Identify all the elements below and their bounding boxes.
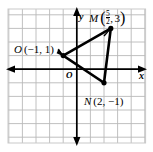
coordinate-plane-figure: O(−1, 1) M ( 5 2 , 3 ) N(2, −1) O x y [0,0,153,152]
point-label-o: O(−1, 1) [14,44,54,55]
y-axis-down-arrow [73,137,80,146]
origin-label: O [66,71,73,80]
coordinate-plane-svg [0,0,153,152]
point-label-m-comma: , [110,13,113,24]
point-label-m: M ( 5 2 , 3 ) [89,10,125,27]
x-axis-left-arrow [6,66,15,73]
point-label-n-name: N [84,95,91,107]
axes [11,12,142,141]
point-label-o-name: O [14,43,22,55]
vertex-point-n [101,80,106,85]
point-label-m-denominator: 2 [106,18,111,26]
point-label-o-coords: (−1, 1) [24,43,54,55]
x-axis-label: x [139,71,144,81]
point-label-m-fraction: 5 2 [106,10,111,27]
point-label-m-name: M [89,13,98,24]
point-label-n-coords: (2, −1) [93,95,123,107]
point-label-m-close-paren: ) [120,11,125,25]
y-axis-label: y [79,12,83,22]
point-label-n: N(2, −1) [84,96,123,107]
